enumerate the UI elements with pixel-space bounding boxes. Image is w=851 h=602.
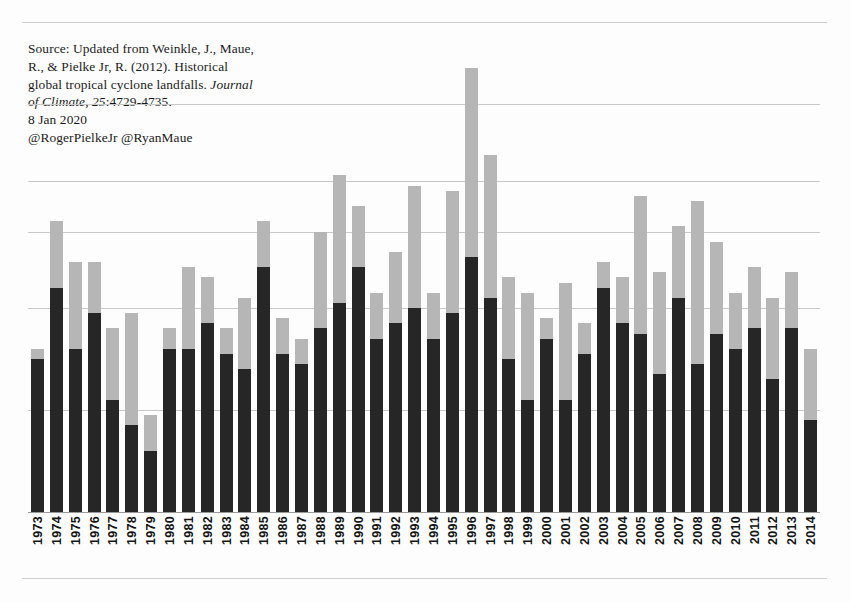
bar-group[interactable] — [597, 262, 610, 512]
bar-group[interactable] — [163, 328, 176, 512]
bar-segment-major — [370, 293, 383, 339]
bar-segment-major — [144, 415, 157, 451]
bar-segment-all — [766, 379, 779, 512]
bar-group[interactable] — [521, 293, 534, 512]
x-tick-1979: 1979 — [144, 516, 157, 545]
bar-group[interactable] — [634, 196, 647, 512]
bar-segment-major — [50, 221, 63, 287]
x-tick-1983: 1983 — [220, 516, 233, 545]
bar-segment-all — [804, 420, 817, 512]
bar-group[interactable] — [502, 277, 515, 512]
bar-segment-major — [69, 262, 82, 349]
x-tick-1994: 1994 — [427, 516, 440, 545]
bar-segment-all — [31, 359, 44, 512]
bar-segment-all — [672, 298, 685, 512]
x-tick-2003: 2003 — [597, 516, 610, 545]
bar-segment-major — [502, 277, 515, 359]
bar-group[interactable] — [804, 349, 817, 512]
x-tick-1980: 1980 — [163, 516, 176, 545]
bar-group[interactable] — [69, 262, 82, 512]
bar-group[interactable] — [691, 201, 704, 512]
bar-segment-major — [804, 349, 817, 420]
bar-segment-major — [125, 313, 138, 425]
bar-group[interactable] — [238, 298, 251, 512]
bar-segment-all — [220, 354, 233, 512]
bar-group[interactable] — [295, 339, 308, 512]
x-tick-2007: 2007 — [672, 516, 685, 545]
bar-group[interactable] — [672, 226, 685, 512]
bar-group[interactable] — [31, 349, 44, 512]
bar-group[interactable] — [125, 313, 138, 512]
bar-segment-major — [748, 267, 761, 328]
bar-group[interactable] — [427, 293, 440, 512]
x-tick-1990: 1990 — [352, 516, 365, 545]
bar-group[interactable] — [352, 206, 365, 512]
bar-group[interactable] — [484, 155, 497, 512]
bar-segment-major — [295, 339, 308, 365]
x-tick-2005: 2005 — [634, 516, 647, 545]
bar-group[interactable] — [446, 191, 459, 512]
bar-group[interactable] — [333, 175, 346, 512]
bar-segment-major — [521, 293, 534, 400]
bar-group[interactable] — [785, 272, 798, 512]
bar-group[interactable] — [729, 293, 742, 512]
x-tick-2013: 2013 — [785, 516, 798, 545]
bar-group[interactable] — [50, 221, 63, 512]
bar-group[interactable] — [559, 283, 572, 512]
bar-segment-all — [314, 328, 327, 512]
bar-segment-major — [766, 298, 779, 380]
x-tick-1978: 1978 — [125, 516, 138, 545]
bar-segment-major — [559, 283, 572, 400]
bar-group[interactable] — [144, 415, 157, 512]
bar-segment-major — [88, 262, 101, 313]
bar-group[interactable] — [220, 328, 233, 512]
x-tick-1974: 1974 — [50, 516, 63, 545]
bar-group[interactable] — [578, 323, 591, 512]
bar-group[interactable] — [257, 221, 270, 512]
x-tick-2004: 2004 — [616, 516, 629, 545]
x-tick-2011: 2011 — [748, 516, 761, 544]
x-tick-1981: 1981 — [182, 516, 195, 545]
bar-group[interactable] — [201, 277, 214, 512]
bar-segment-major — [710, 242, 723, 334]
bar-group[interactable] — [370, 293, 383, 512]
bar-segment-all — [484, 298, 497, 512]
bar-group[interactable] — [465, 68, 478, 512]
x-tick-1982: 1982 — [201, 516, 214, 545]
bar-group[interactable] — [88, 262, 101, 512]
x-tick-2000: 2000 — [540, 516, 553, 545]
bar-segment-major — [201, 277, 214, 323]
bar-segment-major — [333, 175, 346, 303]
bar-group[interactable] — [710, 242, 723, 512]
bar-segment-all — [465, 257, 478, 512]
x-tick-1999: 1999 — [521, 516, 534, 545]
bar-group[interactable] — [540, 318, 553, 512]
bar-segment-major — [465, 68, 478, 257]
x-tick-1984: 1984 — [238, 516, 251, 545]
x-tick-1991: 1991 — [370, 516, 383, 545]
x-tick-2010: 2010 — [729, 516, 742, 545]
bar-segment-all — [446, 313, 459, 512]
bar-group[interactable] — [314, 232, 327, 512]
bar-segment-major — [484, 155, 497, 298]
bar-group[interactable] — [766, 298, 779, 512]
bar-group[interactable] — [408, 186, 421, 512]
x-tick-2012: 2012 — [766, 516, 779, 545]
bar-segment-major — [31, 349, 44, 359]
bar-segment-major — [672, 226, 685, 297]
bar-group[interactable] — [389, 252, 402, 512]
x-tick-1973: 1973 — [31, 516, 44, 545]
x-tick-1992: 1992 — [389, 516, 402, 545]
bar-group[interactable] — [616, 277, 629, 512]
x-tick-1975: 1975 — [69, 516, 82, 545]
bar-group[interactable] — [106, 328, 119, 512]
bar-group[interactable] — [653, 272, 666, 512]
bar-group[interactable] — [182, 267, 195, 512]
bar-segment-all — [88, 313, 101, 512]
bar-segment-all — [238, 369, 251, 512]
bar-group[interactable] — [748, 267, 761, 512]
bar-segment-all — [559, 400, 572, 512]
bar-group[interactable] — [276, 318, 289, 512]
x-tick-2009: 2009 — [710, 516, 723, 545]
scanned-page: Source: Updated from Weinkle, J., Maue, … — [0, 0, 851, 602]
